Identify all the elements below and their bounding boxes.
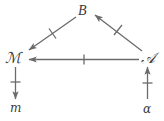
edge-B-to-M xyxy=(29,17,76,50)
tick-mark-B-to-M xyxy=(49,29,56,39)
edge-alpha-to-A xyxy=(143,67,153,99)
arrow-line-A-to-B xyxy=(95,15,142,51)
edge-A-to-M xyxy=(29,55,139,65)
edge-A-to-B xyxy=(95,15,142,51)
edge-M-to-m xyxy=(11,67,21,99)
math-diagram: B ℳ 𝒜 m α xyxy=(0,0,164,121)
diagram-canvas xyxy=(0,0,164,121)
